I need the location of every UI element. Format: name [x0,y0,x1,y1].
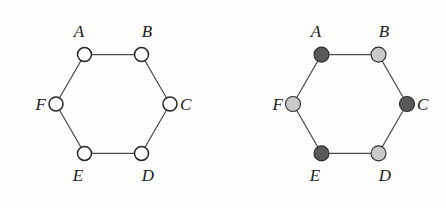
graph-edge-e-f [56,104,85,153]
graph-node-c[interactable] [163,97,177,111]
vertex-label-d: D [141,166,155,185]
graph-node-f[interactable] [49,97,63,111]
graph-node-d[interactable] [371,146,386,161]
graph-edge-c-d [379,104,408,153]
vertex-label-e: E [72,166,84,185]
two-colored-cycle-graph: ABCDEF [272,22,429,185]
vertex-label-f: F [272,95,284,114]
graph-canvas: ABCDEFABCDEF [0,0,446,208]
vertex-label-d: D [378,166,392,185]
graph-node-b[interactable] [371,47,386,62]
vertex-label-a: A [310,22,322,41]
graph-node-a[interactable] [78,48,92,62]
vertex-label-b: B [379,22,390,41]
graph-node-f[interactable] [286,97,301,112]
edge-group [56,55,170,154]
graph-node-b[interactable] [135,48,149,62]
vertex-label-f: F [35,95,47,114]
graph-edge-f-a [293,55,322,104]
graph-edge-b-c [379,55,408,104]
uncolored-cycle-graph: ABCDEF [35,22,192,185]
graph-node-e[interactable] [314,146,329,161]
vertex-label-b: B [142,22,153,41]
graph-node-d[interactable] [135,146,149,160]
graph-node-a[interactable] [314,47,329,62]
edge-group [293,55,407,154]
graph-node-e[interactable] [78,146,92,160]
vertex-label-a: A [73,22,85,41]
graph-node-c[interactable] [400,97,415,112]
vertex-label-c: C [417,95,429,114]
vertex-label-e: E [309,166,321,185]
vertex-label-c: C [180,95,192,114]
graph-edge-c-d [142,104,171,153]
graph-edge-e-f [293,104,322,153]
hexagon-graph-figure: ABCDEFABCDEF [0,0,446,208]
graph-edge-b-c [142,55,171,104]
graph-edge-f-a [56,55,85,104]
